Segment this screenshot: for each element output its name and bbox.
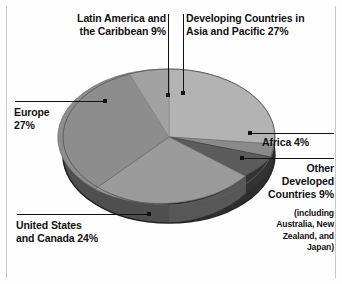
chart-stage: Latin America and the Caribbean 9% Devel… xyxy=(0,0,342,284)
leader-line-other-developed xyxy=(242,158,334,159)
slice-label-africa: Africa 4% xyxy=(262,136,334,149)
pie-chart-figure: Latin America and the Caribbean 9% Devel… xyxy=(0,0,342,284)
slice-label-developing-asia: Developing Countries in Asia and Pacific… xyxy=(186,12,332,38)
leader-dot-other-developed xyxy=(240,156,244,160)
leader-line-developing-asia xyxy=(183,14,184,93)
leader-line-africa xyxy=(250,133,334,134)
leader-dot-africa xyxy=(248,131,252,135)
leader-dot-united-states-canada xyxy=(147,212,151,216)
leader-dot-developing-asia xyxy=(181,91,185,95)
slice-label-latin-america: Latin America and the Caribbean 9% xyxy=(44,12,166,38)
slice-label-united-states-canada: United States and Canada 24% xyxy=(16,219,156,245)
slice-label-europe: Europe 27% xyxy=(14,106,110,132)
leader-dot-latin-america xyxy=(166,93,170,97)
leader-line-latin-america xyxy=(168,14,169,95)
leader-line-united-states-canada xyxy=(17,214,149,215)
slice-label-other-developed-note: (including Australia, New Zealand, and J… xyxy=(238,208,334,253)
slice-label-other-developed: Other Developed Countries 9% xyxy=(240,162,334,200)
leader-line-europe xyxy=(15,101,105,102)
leader-dot-europe xyxy=(103,99,107,103)
